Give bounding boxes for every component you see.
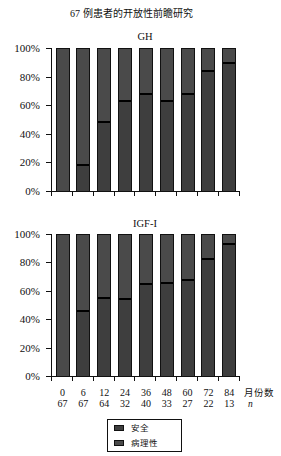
bar-segment-safe (119, 298, 131, 376)
y-axis (51, 48, 52, 196)
y-tick-label: 40% (0, 312, 40, 326)
bar-60-months (181, 234, 195, 377)
legend: 安全 病理性 (107, 419, 182, 452)
bar-60-months (181, 48, 195, 192)
x-tick (51, 191, 52, 196)
bar-72-months (201, 48, 215, 192)
y-tick-label: 80% (0, 255, 40, 269)
bar-segment-safe (182, 279, 194, 376)
bar-24-months (118, 48, 132, 192)
gh-chart-title: GH (115, 30, 175, 44)
x-tick (134, 376, 135, 381)
bar-12-months (97, 48, 111, 192)
figure: 67 例患者的开放性前瞻研究 GH 0%20%40%60%80%100% IGF… (0, 0, 281, 456)
igf-stacked-bar-chart: 0%20%40%60%80%100% (0, 234, 281, 376)
x-tick (114, 376, 115, 381)
bar-segment-safe (140, 93, 152, 191)
bar-84-months (222, 48, 236, 192)
bar-segment-safe (77, 310, 89, 376)
y-tick-label: 0% (0, 369, 40, 383)
y-tick-label: 0% (0, 184, 40, 198)
y-tick-label: 60% (0, 284, 40, 298)
bar-segment-safe (223, 243, 235, 376)
bar-segment-safe (182, 93, 194, 191)
x-label-n: 67 (53, 398, 73, 410)
bar-36-months (139, 234, 153, 377)
x-tick (176, 191, 177, 196)
bar-24-months (118, 234, 132, 377)
x-tick (51, 376, 52, 381)
x-tick (134, 191, 135, 196)
bar-segment-safe (98, 121, 110, 191)
bar-segment-safe (77, 164, 89, 191)
x-tick (176, 376, 177, 381)
bar-36-months (139, 48, 153, 192)
y-tick-label: 100% (0, 227, 40, 241)
x-label-n: 40 (136, 398, 156, 410)
y-tick-label: 20% (0, 155, 40, 169)
x-label-n: 27 (178, 398, 198, 410)
y-tick-label: 40% (0, 127, 40, 141)
y-tick-label: 20% (0, 341, 40, 355)
bar-0-months (56, 48, 70, 192)
y-tick-label: 60% (0, 98, 40, 112)
x-tick (155, 376, 156, 381)
bar-48-months (160, 48, 174, 192)
n-label: n (248, 398, 253, 410)
x-tick (114, 191, 115, 196)
x-tick (72, 191, 73, 196)
legend-item-safe: 安全 (108, 421, 181, 435)
legend-swatch-safe (114, 425, 124, 431)
x-tick (93, 191, 94, 196)
bar-segment-safe (161, 282, 173, 376)
bar-segment-safe (98, 297, 110, 376)
bar-segment-safe (119, 100, 131, 191)
bar-6-months (76, 48, 90, 192)
legend-label-pathological: 病理性 (131, 436, 158, 450)
x-tick (218, 191, 219, 196)
bar-0-months (56, 234, 70, 377)
igf-chart-title: IGF-I (115, 217, 175, 231)
x-tick (155, 191, 156, 196)
bar-segment-safe (161, 100, 173, 191)
x-tick (239, 191, 240, 196)
y-tick-label: 80% (0, 70, 40, 84)
legend-label-safe: 安全 (131, 421, 149, 435)
figure-title: 67 例患者的开放性前瞻研究 (70, 7, 192, 21)
x-tick (197, 191, 198, 196)
bar-12-months (97, 234, 111, 377)
x-label-n: 22 (198, 398, 218, 410)
x-label-n: 33 (157, 398, 177, 410)
x-label-n: 13 (219, 398, 239, 410)
bar-segment-safe (223, 62, 235, 191)
bar-6-months (76, 234, 90, 377)
x-label-n: 32 (115, 398, 135, 410)
legend-item-pathological: 病理性 (108, 436, 181, 450)
y-axis (51, 234, 52, 381)
bar-72-months (201, 234, 215, 377)
y-tick-label: 100% (0, 41, 40, 55)
x-tick (197, 376, 198, 381)
legend-swatch-pathological (114, 440, 124, 446)
x-tick (72, 376, 73, 381)
x-label-n: 67 (73, 398, 93, 410)
bar-segment-safe (140, 283, 152, 376)
gh-stacked-bar-chart: 0%20%40%60%80%100% (0, 48, 281, 191)
x-tick (239, 376, 240, 381)
x-tick (93, 376, 94, 381)
bar-48-months (160, 234, 174, 377)
bar-segment-safe (202, 70, 214, 191)
bar-84-months (222, 234, 236, 377)
x-tick (218, 376, 219, 381)
x-label-n: 64 (94, 398, 114, 410)
bar-segment-safe (202, 258, 214, 376)
